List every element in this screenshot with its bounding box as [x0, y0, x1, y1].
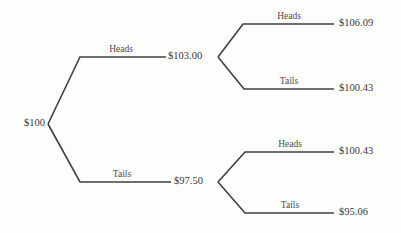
node-label-down: $97.50	[174, 175, 203, 186]
edge-label-down-tails: Tails	[281, 200, 300, 210]
node-label-up-down: $100.43	[339, 82, 373, 93]
branch-root-to-down	[48, 124, 171, 182]
branch-up-to-updown	[218, 57, 334, 89]
branch-up-to-upup	[218, 24, 334, 57]
node-label-up-up: $106.09	[339, 17, 373, 28]
branch-root-to-up	[48, 57, 166, 124]
tree-diagram-canvas: Heads Tails Heads Tails Heads Tails $100…	[0, 0, 401, 233]
edge-label-up-heads: Heads	[277, 11, 301, 21]
node-label-up: $103.00	[168, 50, 202, 61]
branch-down-to-downdown	[218, 182, 334, 213]
binomial-tree-figure: Heads Tails Heads Tails Heads Tails $100…	[0, 0, 401, 233]
edge-label-root-heads: Heads	[109, 44, 133, 54]
edge-label-up-tails: Tails	[280, 76, 299, 86]
edge-label-root-tails: Tails	[113, 169, 132, 179]
edge-label-down-heads: Heads	[278, 139, 302, 149]
node-label-root: $100	[24, 117, 45, 128]
branch-down-to-downup	[218, 152, 334, 182]
node-label-down-down: $95.06	[339, 206, 368, 217]
node-label-down-up: $100.43	[339, 145, 373, 156]
